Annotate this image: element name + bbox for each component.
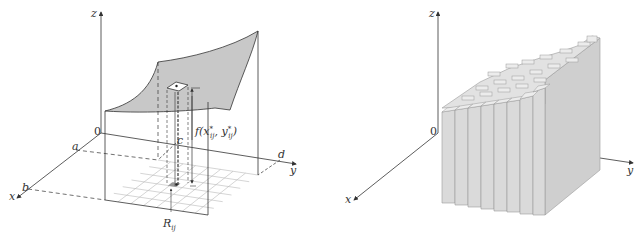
label-a: a (72, 140, 79, 153)
region-rij-label: Rij (162, 217, 177, 232)
surface-f (105, 31, 258, 112)
right-figure: z x y 0 (345, 7, 634, 215)
region-grid (114, 160, 258, 213)
y-axis-label: y (626, 164, 634, 177)
x-axis-label: x (9, 190, 16, 203)
figure-canvas: z x y 0 a b c d f(x*ij, y*ij) Rij (0, 0, 640, 237)
x-axis-label: x (345, 193, 352, 206)
label-d: d (278, 148, 285, 161)
x-axis (354, 133, 438, 200)
left-figure: z x y 0 a b c d f(x*ij, y*ij) Rij (9, 7, 297, 232)
origin-label: 0 (94, 125, 101, 138)
origin-label: 0 (430, 125, 437, 138)
x-axis (17, 133, 101, 198)
z-axis-label: z (428, 7, 435, 20)
z-axis-label: z (90, 7, 97, 20)
label-c: c (177, 134, 183, 147)
label-b: b (22, 181, 29, 194)
y-axis-visible (600, 158, 633, 163)
height-label: f(x*ij, y*ij) (194, 125, 237, 140)
y-axis-label: y (289, 164, 297, 177)
